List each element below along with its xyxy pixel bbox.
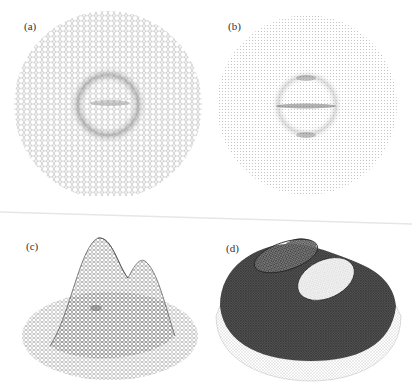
mesh-top-view-b [206, 0, 412, 196]
mesh-surface-two-peaks [0, 196, 206, 392]
mesh-top-view-a [0, 0, 206, 196]
mesh-shaded-dome [206, 196, 412, 392]
panel-c: (c) [0, 196, 206, 392]
panel-d: (d) [206, 196, 412, 392]
panel-a: (a) [0, 0, 206, 196]
panel-b: (b) [206, 0, 412, 196]
